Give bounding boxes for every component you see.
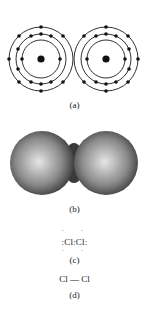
atom-left: Cl	[59, 274, 68, 284]
lone-pair-dots: ¨	[62, 229, 65, 235]
space-filling-panel: (b)	[0, 110, 149, 220]
panel-label-b: (b)	[0, 204, 149, 214]
single-bond: —	[70, 274, 79, 284]
panel-label-d: (d)	[0, 290, 149, 300]
structural-formula: Cl — Cl	[0, 274, 149, 284]
bohr-model-panel: (a)	[0, 0, 149, 110]
panel-label-a: (a)	[0, 100, 149, 110]
structural-formula-panel: Cl — Cl (d)	[0, 270, 149, 320]
lewis-structure-panel: ¨ ¨ ¨ ¨ :Cl:Cl: (c)	[0, 220, 149, 270]
lewis-formula: :Cl:Cl:	[0, 237, 149, 247]
bohr-model-diagram	[0, 0, 149, 110]
atom-right: Cl	[81, 274, 90, 284]
panel-label-c: (c)	[0, 255, 149, 265]
lone-pair-dots: ¨	[81, 229, 84, 235]
